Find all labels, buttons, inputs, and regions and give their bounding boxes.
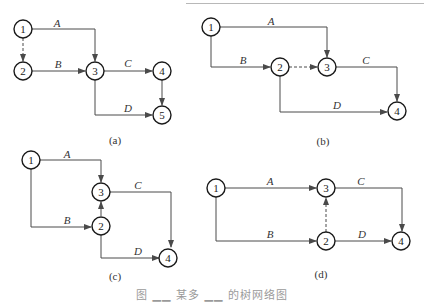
node-d-3: 3 xyxy=(317,179,335,197)
edge-label-c-D: D xyxy=(133,245,142,257)
edge-a-1-3 xyxy=(32,29,95,61)
node-a-5: 5 xyxy=(153,106,171,124)
edge-label-b-C: C xyxy=(362,54,370,66)
edge-label-c-C: C xyxy=(134,179,142,191)
edge-label-a-B: B xyxy=(55,58,62,70)
figure-caption: 图 ▁▁ 某多 ▁▁ 的树网络图 xyxy=(0,286,424,302)
node-d-1: 1 xyxy=(207,179,225,197)
node-label: 1 xyxy=(28,154,34,166)
node-label: 1 xyxy=(20,23,26,35)
node-b-2: 2 xyxy=(271,58,289,76)
node-c-1: 1 xyxy=(22,151,40,169)
node-b-4: 4 xyxy=(388,102,406,120)
node-label: 5 xyxy=(159,109,165,121)
node-c-4: 4 xyxy=(159,249,177,267)
node-label: 2 xyxy=(98,220,104,232)
edge-label-d-D: D xyxy=(357,228,366,240)
subfigure-label-b: (b) xyxy=(317,135,330,148)
edge-d-3-4 xyxy=(335,188,402,231)
node-d-2: 2 xyxy=(317,232,335,250)
node-label: 3 xyxy=(98,186,104,198)
edge-b-3-4 xyxy=(336,67,397,101)
node-label: 1 xyxy=(208,21,214,33)
subfigure-a: A B C D 1 2 3 4 5 (a) xyxy=(14,17,171,147)
node-label: 2 xyxy=(20,65,26,77)
node-label: 2 xyxy=(277,61,283,73)
edge-label-b-D: D xyxy=(332,99,341,111)
node-label: 3 xyxy=(92,65,98,77)
edge-b-1-3 xyxy=(220,27,327,57)
node-d-4: 4 xyxy=(392,232,410,250)
node-label: 4 xyxy=(398,235,404,247)
node-a-2: 2 xyxy=(14,62,32,80)
node-label: 4 xyxy=(165,252,171,264)
subfigure-label-d: (d) xyxy=(315,268,328,281)
subfigure-b: A B C D 1 2 3 4 (b) xyxy=(202,15,406,148)
edge-c-1-3 xyxy=(40,160,101,182)
node-label: 4 xyxy=(394,105,400,117)
edge-c-2-4 xyxy=(101,234,159,258)
subfigure-label-c: (c) xyxy=(109,270,122,283)
node-label: 1 xyxy=(213,182,219,194)
node-label: 2 xyxy=(323,235,329,247)
node-c-3: 3 xyxy=(92,183,110,201)
edge-c-3-4 xyxy=(110,192,171,247)
edge-label-d-A: A xyxy=(266,175,274,187)
node-b-3: 3 xyxy=(318,58,336,76)
node-label: 4 xyxy=(159,65,165,77)
edge-c-1-2 xyxy=(31,169,91,227)
edge-label-a-D: D xyxy=(123,102,132,114)
node-b-1: 1 xyxy=(202,18,220,36)
edge-label-c-B: B xyxy=(64,214,71,226)
subfigure-d: A B C D 1 2 3 4 (d) xyxy=(207,175,410,281)
edge-label-a-C: C xyxy=(124,57,132,69)
node-a-4: 4 xyxy=(153,62,171,80)
subfigure-label-a: (a) xyxy=(109,134,122,147)
edge-label-b-B: B xyxy=(240,54,247,66)
edge-label-b-A: A xyxy=(267,15,275,27)
edge-label-d-B: B xyxy=(267,228,274,240)
node-label: 3 xyxy=(323,182,329,194)
node-a-1: 1 xyxy=(14,20,32,38)
node-c-2: 2 xyxy=(92,217,110,235)
node-a-3: 3 xyxy=(86,62,104,80)
edge-label-c-A: A xyxy=(63,148,71,160)
node-label: 3 xyxy=(324,61,330,73)
edge-label-d-C: C xyxy=(357,175,365,187)
subfigure-c: A B C D 1 2 3 4 (c) xyxy=(22,148,177,283)
edge-label-a-A: A xyxy=(53,17,61,29)
